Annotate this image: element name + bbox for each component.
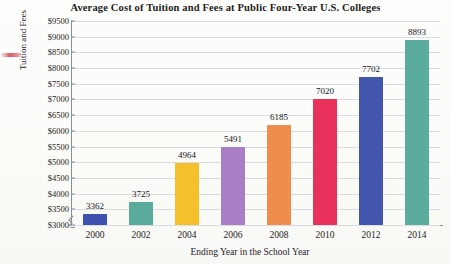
red-pen-mark: [0, 53, 22, 57]
x-axis-tick-label-2008: 2008: [270, 230, 289, 240]
y-axis-tick-labels: $9500$9000$8500$8000$7500$7000$6500$6000…: [26, 0, 69, 264]
chart-container: Average Cost of Tuition and Fees at Publ…: [0, 0, 451, 264]
bar-2000[interactable]: [83, 214, 107, 225]
gridline: [72, 84, 440, 85]
y-axis-tick-label: $7000: [48, 94, 69, 104]
gridline: [72, 68, 440, 69]
bar-2010[interactable]: [313, 99, 337, 225]
x-axis-tick-label-2012: 2012: [362, 230, 381, 240]
x-axis-tick-label-2000: 2000: [86, 230, 105, 240]
bar-value-label-2012: 7702: [362, 64, 380, 74]
y-axis-tick-mark: [71, 130, 75, 131]
y-axis-tick-label: $5000: [48, 157, 69, 167]
y-axis-tick-label: $4500: [48, 173, 69, 183]
gridline: [72, 178, 440, 179]
y-axis-tick-label: $7500: [48, 79, 69, 89]
gridline: [72, 21, 440, 22]
bar-value-label-2006: 5491: [224, 134, 242, 144]
y-axis-tick-mark: [71, 68, 75, 69]
x-axis-tick-label-2004: 2004: [178, 230, 197, 240]
bar-2006[interactable]: [221, 147, 245, 225]
gridline: [72, 194, 440, 195]
gridline: [72, 147, 440, 148]
y-axis-tick-mark: [71, 52, 75, 53]
y-axis-tick-mark: [71, 83, 75, 84]
x-axis-tick-label-2002: 2002: [132, 230, 151, 240]
y-axis-tick-mark: [71, 177, 75, 178]
y-axis-tick-label: $9500: [48, 16, 69, 26]
y-axis-tick-label: $5500: [48, 142, 69, 152]
gridline: [72, 162, 440, 163]
plot-area: 33623725496454916185702077028893: [72, 21, 440, 225]
gridline: [72, 115, 440, 116]
gridline: [72, 225, 440, 226]
bar-2002[interactable]: [129, 202, 153, 225]
bar-value-label-2014: 8893: [408, 27, 426, 37]
y-axis-tick-mark: [71, 193, 75, 194]
bar-2004[interactable]: [175, 163, 199, 225]
y-axis-tick-label: $9000: [48, 32, 69, 42]
gridline: [72, 99, 440, 100]
bar-value-label-2008: 6185: [270, 112, 288, 122]
y-axis-tick-label: $3500: [48, 204, 69, 214]
bar-value-label-2002: 3725: [132, 189, 150, 199]
bar-2014[interactable]: [405, 40, 429, 225]
x-axis-tick-label-2010: 2010: [316, 230, 335, 240]
bar-2012[interactable]: [359, 77, 383, 225]
y-axis-tick-mark: [71, 115, 75, 116]
bar-value-label-2004: 4964: [178, 150, 196, 160]
y-axis-tick-mark: [71, 99, 75, 100]
y-axis-tick-mark: [71, 21, 75, 22]
y-axis-tick-label: $6500: [48, 110, 69, 120]
x-axis-title: Ending Year in the School Year: [60, 247, 440, 257]
y-axis-tick-mark: [71, 162, 75, 163]
gridline: [72, 37, 440, 38]
y-axis-tick-label: $8500: [48, 47, 69, 57]
y-axis-tick-mark: [71, 146, 75, 147]
gridline: [72, 52, 440, 53]
bar-value-label-2010: 7020: [316, 86, 334, 96]
y-axis-tick-label: $4000: [48, 189, 69, 199]
gridline: [72, 131, 440, 132]
y-axis-tick-label: $6000: [48, 126, 69, 136]
y-axis-tick-mark: [71, 209, 75, 210]
bar-2008[interactable]: [267, 125, 291, 225]
y-axis-tick-label: $8000: [48, 63, 69, 73]
y-axis-tick-mark: [71, 36, 75, 37]
x-axis-tick-label-2006: 2006: [224, 230, 243, 240]
gridline: [72, 209, 440, 210]
bar-value-label-2000: 3362: [86, 201, 104, 211]
x-axis-tick-label-2014: 2014: [408, 230, 427, 240]
axis-break-icon: [66, 215, 78, 229]
